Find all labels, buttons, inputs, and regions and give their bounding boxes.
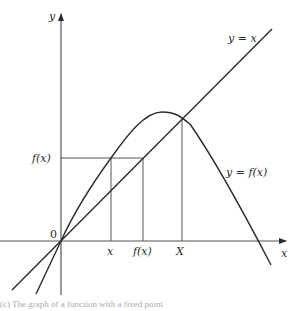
fx-y-tick-label: f(x) <box>31 152 51 165</box>
fx-tick-label: f(x) <box>132 245 152 258</box>
x-tick-label: x <box>107 245 114 258</box>
figure-caption: (c) The graph of a function with a fixed… <box>0 299 163 309</box>
fixed-point-tick-label: X <box>175 245 185 258</box>
identity-line-label: y = x <box>227 32 257 45</box>
x-axis-label: x <box>281 247 288 260</box>
function-curve <box>36 112 271 294</box>
y-axis-label: y <box>48 10 56 23</box>
function-curve-label: y = f(x) <box>225 166 267 179</box>
origin-label: 0 <box>50 228 57 241</box>
